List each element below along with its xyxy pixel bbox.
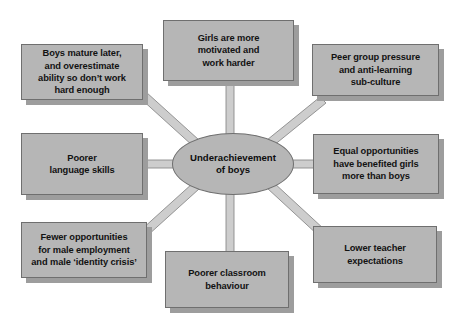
center-node-label: Underachievement of boys — [190, 152, 276, 177]
node-label: Poorer classroom behaviour — [188, 267, 265, 292]
node-label: Girls are more motivated and work harder — [198, 32, 260, 69]
node-fewer-opportunities[interactable]: Fewer opportunities for male employment … — [21, 222, 147, 278]
node-equal-opportunities[interactable]: Equal opportunities have benefited girls… — [313, 134, 439, 194]
connector-boys-mature-later — [140, 92, 199, 146]
connector-fewer-opportunities — [141, 183, 199, 236]
node-lower-teacher-expectations[interactable]: Lower teacher expectations — [313, 226, 437, 283]
node-girls-more-motivated[interactable]: Girls are more motivated and work harder — [163, 20, 294, 81]
connector-girls-more-motivated — [226, 82, 234, 135]
node-poorer-classroom-behaviour[interactable]: Poorer classroom behaviour — [165, 251, 289, 308]
node-label: Equal opportunities have benefited girls… — [333, 145, 418, 182]
mind-map-diagram: Boys mature later, and overestimate abil… — [0, 0, 461, 330]
node-label: Fewer opportunities for male employment … — [31, 231, 136, 268]
node-label: Boys mature later, and overestimate abil… — [38, 47, 126, 96]
node-peer-group-pressure[interactable]: Peer group pressure and anti-learning su… — [312, 44, 439, 96]
node-center-underachievement-of-boys[interactable]: Underachievement of boys — [172, 133, 294, 195]
node-boys-mature-later[interactable]: Boys mature later, and overestimate abil… — [21, 44, 143, 100]
node-label: Poorer language skills — [49, 152, 114, 177]
connector-poorer-classroom-behaviour — [226, 192, 234, 252]
node-poorer-language-skills[interactable]: Poorer language skills — [21, 133, 143, 195]
node-label: Lower teacher expectations — [344, 242, 406, 267]
node-label: Peer group pressure and anti-learning su… — [331, 51, 420, 88]
